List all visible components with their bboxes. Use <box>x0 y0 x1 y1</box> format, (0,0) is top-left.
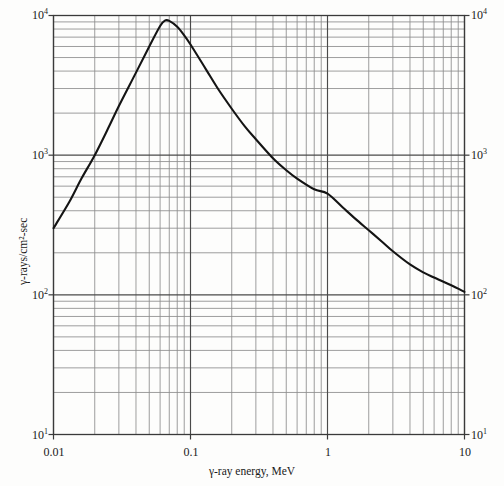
axis-ticks <box>49 16 470 440</box>
chart-figure: 104 103 102 101 104 103 102 101 0.01 0.1… <box>0 0 504 486</box>
y-tick-label-right-10: 101 <box>471 429 501 441</box>
y-tick-label-left-100: 102 <box>18 289 48 301</box>
y-axis-title: γ-rays/cm²-sec <box>18 218 30 285</box>
y-tick-label-right-10000: 104 <box>471 9 501 21</box>
grid-minor-horizontal <box>54 22 465 393</box>
grid-major-vertical <box>54 16 465 435</box>
y-tick-label-left-10: 101 <box>18 429 48 441</box>
y-tick-label-right-1000: 103 <box>471 149 501 161</box>
x-axis-title: γ-ray energy, MeV <box>0 466 504 478</box>
y-tick-label-right-100: 102 <box>471 289 501 301</box>
x-tick-label-1: 1 <box>310 446 346 458</box>
grid-minor-vertical <box>95 16 458 435</box>
y-tick-label-left-1000: 103 <box>18 149 48 161</box>
y-tick-label-left-10000: 104 <box>18 9 48 21</box>
data-curve-line <box>54 20 465 292</box>
x-tick-label-0.01: 0.01 <box>36 446 72 458</box>
x-tick-label-0.1: 0.1 <box>173 446 209 458</box>
plot-frame <box>54 16 465 435</box>
x-tick-label-10: 10 <box>447 446 483 458</box>
plot-area <box>0 0 504 486</box>
grid-major-horizontal <box>54 16 465 435</box>
